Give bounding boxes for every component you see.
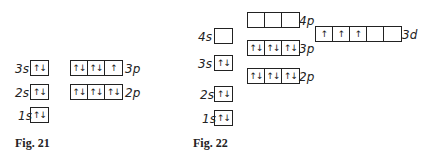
orbital-label-3p: 3p	[299, 42, 314, 56]
orbital-cell: ↑↓	[71, 61, 88, 75]
orbital-cell: ↑↓	[282, 41, 299, 55]
orbital-cell: ↑↓	[215, 87, 232, 101]
orbital-box-2p: ↑↓ ↑↓ ↑↓	[70, 84, 123, 100]
orbital-cell: ↑	[105, 61, 122, 75]
orbital-label-4s: 4s	[198, 30, 212, 44]
orbital-cell: ↑↓	[31, 85, 48, 99]
orbital-label-3p: 3p	[125, 62, 140, 76]
orbital-cell	[265, 13, 282, 27]
orbital-box-2s: ↑↓	[214, 86, 233, 102]
orbital-cell: ↑	[316, 27, 333, 41]
orbital-cell: ↑↓	[215, 111, 232, 125]
orbital-box-2p: ↑↓ ↑↓ ↑↓	[247, 68, 300, 84]
orbital-cell: ↑	[333, 27, 350, 41]
orbital-box-1s: ↑↓	[30, 107, 49, 123]
orbital-cell: ↑↓	[248, 69, 265, 83]
orbital-cell: ↑↓	[248, 41, 265, 55]
orbital-cell: ↑↓	[88, 85, 105, 99]
orbital-cell: ↑↓	[105, 85, 122, 99]
orbital-box-2s: ↑↓	[30, 84, 49, 100]
orbital-label-3d: 3d	[402, 28, 417, 42]
orbital-cell	[215, 29, 232, 43]
orbital-cell: ↑↓	[215, 56, 232, 70]
orbital-label-2s: 2s	[200, 88, 214, 102]
orbital-cell: ↑	[350, 27, 367, 41]
orbital-label-3s: 3s	[15, 62, 29, 76]
orbital-box-1s: ↑↓	[214, 110, 233, 126]
orbital-cell: ↑↓	[88, 61, 105, 75]
orbital-box-4s	[214, 28, 233, 44]
orbital-cell	[248, 13, 265, 27]
orbital-cell: ↑↓	[71, 85, 88, 99]
orbital-cell	[282, 13, 299, 27]
orbital-box-3d: ↑ ↑ ↑	[315, 26, 402, 42]
orbital-box-3p: ↑↓ ↑↓ ↑↓	[247, 40, 300, 56]
orbital-cell	[367, 27, 384, 41]
orbital-label-2p: 2p	[299, 70, 314, 84]
orbital-label-4p: 4p	[299, 14, 314, 28]
orbital-cell: ↑↓	[282, 69, 299, 83]
orbital-cell: ↑↓	[265, 41, 282, 55]
orbital-label-2s: 2s	[15, 86, 29, 100]
figure-caption: Fig. 22	[193, 136, 228, 151]
orbital-cell: ↑↓	[265, 69, 282, 83]
figure-caption: Fig. 21	[15, 136, 50, 151]
orbital-label-2p: 2p	[125, 86, 140, 100]
orbital-box-3s: ↑↓	[214, 55, 233, 71]
orbital-cell: ↑↓	[31, 61, 48, 75]
orbital-cell: ↑↓	[31, 108, 48, 122]
orbital-box-3p: ↑↓ ↑↓ ↑	[70, 60, 123, 76]
orbital-box-3s: ↑↓	[30, 60, 49, 76]
orbital-cell	[384, 27, 401, 41]
orbital-label-3s: 3s	[198, 57, 212, 71]
orbital-box-4p	[247, 12, 300, 28]
